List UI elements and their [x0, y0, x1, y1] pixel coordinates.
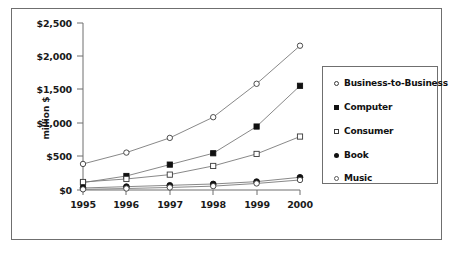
series-line — [83, 46, 300, 164]
data-point — [80, 187, 85, 192]
x-tick-label-1997: 1997 — [153, 199, 187, 210]
data-point — [167, 172, 172, 177]
legend-label-book: Book — [344, 150, 368, 160]
y-tick-label-500: $500 — [26, 151, 72, 162]
data-point — [254, 81, 259, 86]
x-tick-label-1998: 1998 — [196, 199, 230, 210]
series-line — [83, 86, 300, 183]
legend-label-business-to-business: Business-to-Business — [344, 78, 448, 88]
filled-square-icon — [329, 101, 343, 113]
x-tick-label-1996: 1996 — [109, 199, 143, 210]
legend-item-book[interactable]: Book — [329, 149, 368, 161]
series-business-to-business — [80, 43, 302, 167]
data-point — [254, 124, 259, 129]
legend-item-business-to-business[interactable]: Business-to-Business — [329, 77, 448, 89]
data-point — [297, 43, 302, 48]
chart-figure: million $ $2,500 $2,000 $1,500 $1,000 $5… — [0, 0, 454, 259]
y-tick-label-2000: $2,000 — [26, 51, 72, 62]
x-tick-label-1995: 1995 — [66, 199, 100, 210]
data-point — [254, 151, 259, 156]
data-point — [80, 161, 85, 166]
series-layer — [80, 43, 303, 192]
data-point — [124, 186, 129, 191]
y-tick-label-1500: $1,500 — [26, 84, 72, 95]
filled-circle-icon — [329, 149, 343, 161]
legend-label-computer: Computer — [344, 102, 392, 112]
data-point — [167, 185, 172, 190]
legend-label-consumer: Consumer — [344, 126, 393, 136]
chart-legend: Business-to-Business Computer Consumer B… — [322, 66, 438, 184]
data-point — [124, 150, 129, 155]
x-tick-label-2000: 2000 — [283, 199, 317, 210]
data-point — [124, 176, 129, 181]
x-axis-ticks — [83, 190, 300, 195]
legend-item-consumer[interactable]: Consumer — [329, 125, 393, 137]
x-tick-label-1999: 1999 — [240, 199, 274, 210]
data-point — [211, 183, 216, 188]
data-point — [80, 179, 85, 184]
data-point — [297, 177, 302, 182]
legend-item-computer[interactable]: Computer — [329, 101, 392, 113]
open-square-icon — [329, 125, 343, 137]
legend-item-music[interactable]: Music — [329, 172, 372, 184]
legend-label-music: Music — [344, 173, 372, 183]
data-point — [211, 151, 216, 156]
data-point — [297, 134, 302, 139]
data-point — [254, 181, 259, 186]
open-circle-icon — [329, 77, 343, 89]
y-tick-label-0: $0 — [26, 185, 72, 196]
data-point — [211, 163, 216, 168]
chart-frame: million $ $2,500 $2,000 $1,500 $1,000 $5… — [11, 8, 442, 240]
open-diamond-icon — [329, 172, 343, 184]
y-tick-label-2500: $2,500 — [26, 18, 72, 29]
data-point — [211, 114, 216, 119]
data-point — [167, 135, 172, 140]
data-point — [297, 83, 302, 88]
data-point — [167, 162, 172, 167]
y-tick-label-1000: $1,000 — [26, 118, 72, 129]
